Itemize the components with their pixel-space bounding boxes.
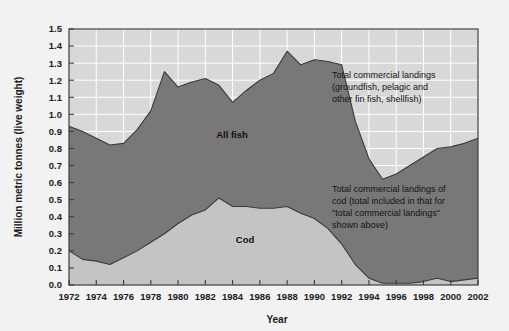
annotation-total-line-1: Total commercial landings: [332, 70, 436, 80]
x-tick-label: 1986: [249, 291, 270, 302]
y-tick-label: 0.0: [49, 279, 62, 290]
x-tick-label: 1998: [413, 291, 434, 302]
annotation-cod-line-1: Total commercial landings of: [332, 184, 446, 194]
x-tick-label: 1974: [86, 291, 108, 302]
x-tick-label: 1984: [222, 291, 244, 302]
y-tick-label: 1.1: [49, 92, 63, 103]
x-tick-label: 1992: [331, 291, 352, 302]
x-tick-label: 2000: [440, 291, 461, 302]
y-tick-label: 1.5: [49, 23, 63, 34]
x-tick-label: 1982: [195, 291, 216, 302]
annotation-total-line-3: other fin fish, shellfish): [332, 94, 422, 104]
x-tick-label: 1996: [386, 291, 407, 302]
x-tick-label: 1978: [140, 291, 161, 302]
y-tick-label: 1.4: [49, 40, 63, 51]
y-tick-label: 1.0: [49, 109, 62, 120]
annotation-total-landings: Total commercial landings (groundfish, p…: [332, 70, 436, 104]
x-tick-label: 1994: [358, 291, 380, 302]
x-tick-label: 1988: [277, 291, 298, 302]
y-tick-label: 0.7: [49, 160, 62, 171]
y-tick-label: 0.4: [49, 211, 63, 222]
y-tick-label: 0.8: [49, 143, 62, 154]
y-tick-label: 0.1: [49, 262, 63, 273]
y-tick-label: 0.2: [49, 245, 62, 256]
x-tick-label: 1980: [167, 291, 188, 302]
y-tick-label: 1.2: [49, 75, 62, 86]
x-tick-label: 2002: [467, 291, 488, 302]
y-tick-label: 1.3: [49, 58, 62, 69]
annotation-cod-line-2: cod (total included in that for: [332, 196, 445, 206]
series-label-all-fish: All fish: [216, 129, 248, 140]
fisheries-landings-area-chart: 0.00.10.20.30.40.50.60.70.80.91.01.11.21…: [0, 0, 509, 331]
y-tick-label: 0.9: [49, 126, 62, 137]
annotation-cod-line-4: shown above): [332, 220, 388, 230]
x-axis-title: Year: [266, 314, 287, 325]
annotation-total-line-2: (groundfish, pelagic and: [332, 82, 428, 92]
y-tick-label: 0.6: [49, 177, 62, 188]
chart-figure: 0.00.10.20.30.40.50.60.70.80.91.01.11.21…: [0, 0, 509, 331]
x-tick-label: 1990: [304, 291, 325, 302]
y-axis-title: Million metric tonnes (live weight): [13, 77, 24, 238]
annotation-cod-line-3: "total commercial landings": [332, 208, 440, 218]
x-tick-label: 1972: [58, 291, 79, 302]
x-tick-label: 1976: [113, 291, 134, 302]
series-label-cod: Cod: [236, 234, 255, 245]
y-tick-label: 0.3: [49, 228, 62, 239]
y-tick-label: 0.5: [49, 194, 63, 205]
